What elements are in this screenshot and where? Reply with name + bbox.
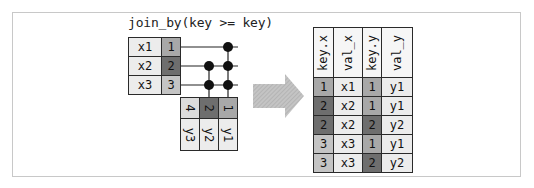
result-value-cell: x3 (333, 134, 363, 154)
result-key-cell: 1 (362, 134, 382, 154)
result-value-cell-text: x1 (341, 80, 355, 94)
result-key-cell-text: 3 (320, 156, 327, 170)
result-header-cell-text: val_x (341, 34, 355, 70)
result-header-cell: val_x (333, 27, 363, 78)
result-value-cell: y1 (381, 96, 413, 116)
result-key-cell: 2 (313, 115, 334, 135)
result-key-cell-text: 2 (368, 118, 375, 132)
result-value-cell-text: y2 (390, 156, 404, 170)
result-key-cell-text: 2 (368, 156, 375, 170)
result-value-cell: x3 (333, 153, 363, 173)
result-key-cell-text: 1 (368, 80, 375, 94)
result-value-cell-text: x3 (341, 156, 355, 170)
result-key-cell-text: 2 (320, 99, 327, 113)
result-value-cell: y1 (381, 134, 413, 154)
result-key-cell-text: 3 (320, 137, 327, 151)
result-key-cell: 3 (313, 153, 334, 173)
result-key-cell-text: 1 (368, 137, 375, 151)
result-value-cell: x1 (333, 77, 363, 97)
result-key-cell-text: 1 (368, 99, 375, 113)
result-header-cell-text: val_y (390, 34, 404, 70)
result-value-cell: y2 (381, 115, 413, 135)
result-value-cell: x2 (333, 115, 363, 135)
result-key-cell: 2 (362, 115, 382, 135)
arrow-layer (0, 0, 534, 188)
result-value-cell: y1 (381, 77, 413, 97)
result-key-cell: 3 (313, 134, 334, 154)
result-value-cell: x2 (333, 96, 363, 116)
result-header-cell: val_y (381, 27, 413, 78)
result-key-cell: 1 (313, 77, 334, 97)
result-header-cell-text: key.y (365, 34, 379, 70)
result-key-cell-text: 1 (320, 80, 327, 94)
result-value-cell-text: x2 (341, 118, 355, 132)
right-arrow-icon (253, 74, 304, 118)
result-key-cell: 2 (313, 96, 334, 116)
result-key-cell-text: 2 (320, 118, 327, 132)
result-header-cell: key.y (362, 27, 382, 78)
result-value-cell-text: x3 (341, 137, 355, 151)
result-key-cell: 1 (362, 77, 382, 97)
result-value-cell: y2 (381, 153, 413, 173)
result-value-cell-text: y1 (390, 99, 404, 113)
result-value-cell-text: x2 (341, 99, 355, 113)
result-header-cell: key.x (313, 27, 334, 78)
result-value-cell-text: y2 (390, 118, 404, 132)
result-key-cell: 2 (362, 153, 382, 173)
result-key-cell: 1 (362, 96, 382, 116)
result-value-cell-text: y1 (390, 137, 404, 151)
result-value-cell-text: y1 (390, 80, 404, 94)
result-header-cell-text: key.x (317, 34, 331, 70)
